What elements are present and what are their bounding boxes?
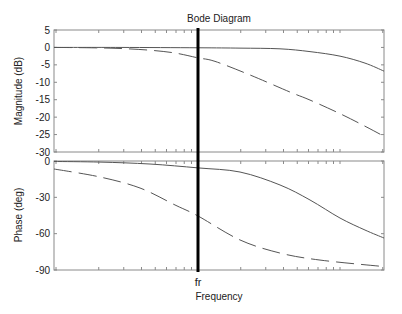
y-tick-label: -30 <box>36 192 51 203</box>
y-tick-label: -20 <box>36 112 51 123</box>
y-tick-label: 5 <box>44 25 50 36</box>
x-axis-label: Frequency <box>195 291 242 302</box>
phase-ticks: 0-30-60-90 <box>36 156 384 276</box>
chart-title: Bode Diagram <box>187 13 251 24</box>
y-tick-label: -25 <box>36 129 51 140</box>
y-tick-label: -90 <box>36 265 51 276</box>
solid-curve <box>54 47 384 71</box>
dashed-curve <box>54 47 384 136</box>
y-tick-label: -60 <box>36 228 51 239</box>
dashed-curve <box>54 169 384 267</box>
magnitude-ticks: 50-5-10-15-20-25-30 <box>36 25 384 158</box>
y-tick-label: -10 <box>36 77 51 88</box>
y-tick-label: -5 <box>41 59 50 70</box>
magnitude-curves <box>54 47 384 136</box>
phase-curves <box>54 161 384 266</box>
phase-ylabel: Phase (deg) <box>13 188 24 242</box>
magnitude-ylabel: Magnitude (dB) <box>13 57 24 125</box>
solid-curve <box>54 161 384 238</box>
bode-diagram: Bode Diagram 50-5-10-15-20-25-30 Magnitu… <box>0 0 402 314</box>
y-tick-label: 0 <box>44 42 50 53</box>
fr-label: fr <box>195 276 202 288</box>
y-tick-label: -15 <box>36 94 51 105</box>
y-tick-label: 0 <box>44 156 50 167</box>
